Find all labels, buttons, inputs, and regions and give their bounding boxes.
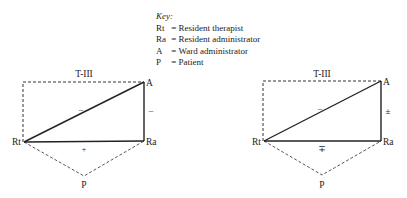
sign-a-ra: ± (386, 106, 391, 116)
node-p-label: P (319, 180, 324, 190)
edge-rt-a (264, 81, 381, 141)
node-ra-label: Ra (383, 137, 394, 147)
node-rt-label: Rt (252, 137, 261, 147)
sign-rt-ra: ∓ (318, 144, 326, 154)
sign-rt-a: – (317, 103, 323, 113)
diagram-title: T-III (75, 69, 93, 79)
diagram-title: T-III (313, 69, 331, 79)
diagrams-canvas: T-III A Ra Rt P – – + T-III A Ra Rt P – … (0, 0, 407, 198)
edge-rt-a (24, 82, 144, 142)
node-a-label: A (383, 77, 390, 87)
edge-rt-ra (24, 141, 144, 142)
node-rt-label: Rt (12, 137, 21, 147)
node-ra-label: Ra (146, 137, 157, 147)
sign-rt-a: – (78, 104, 84, 114)
node-p-label: P (81, 180, 86, 190)
diagram-right: T-III A Ra Rt P – ± ∓ (252, 69, 394, 190)
sign-a-ra: – (148, 105, 154, 115)
sign-rt-ra: + (82, 145, 87, 154)
node-a-label: A (146, 78, 153, 88)
diagram-left: T-III A Ra Rt P – – + (12, 69, 157, 190)
